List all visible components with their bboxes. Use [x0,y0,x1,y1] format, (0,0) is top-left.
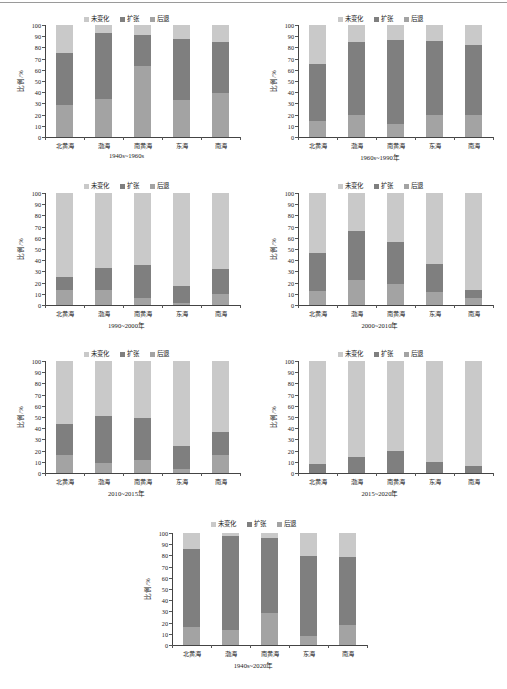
x-axis-label-东海: 东海 [415,477,454,486]
x-axis-label-南海: 南海 [201,477,240,486]
x-tick-mark [367,645,368,648]
legend-item-expansion[interactable]: 扩张 [247,521,266,527]
y-tick-label: 0 [150,642,168,649]
legend-item-unchanged[interactable]: 未变化 [338,351,363,357]
x-axis-line [172,645,367,646]
legend-item-unchanged[interactable]: 未变化 [338,183,363,189]
y-tick-label: 80 [276,380,294,387]
y-tick-label: 90 [23,369,41,376]
legend-label-retreat: 后退 [157,16,169,22]
bar-segment-unchanged [95,25,113,33]
y-tick-label: 40 [276,425,294,432]
x-tick-mark [84,473,85,476]
chart-legend: 未变化扩张后退 [0,183,253,189]
bar-segment-expansion [339,557,357,625]
y-tick-label: 90 [23,33,41,40]
legend-item-retreat[interactable]: 后退 [404,351,423,357]
x-axis-label-南海: 南海 [454,477,493,486]
bar-segment-unchanged [134,25,152,35]
x-axis-label-南海: 南海 [328,649,367,658]
y-tick-label: 50 [23,246,41,253]
legend-item-expansion[interactable]: 扩张 [374,351,393,357]
legend-item-unchanged[interactable]: 未变化 [84,16,109,22]
legend-item-retreat[interactable]: 后退 [277,521,296,527]
bar-segment-expansion [465,45,483,114]
y-tick-label: 10 [276,290,294,297]
y-tick-label: 60 [150,574,168,581]
bar-segment-unchanged [212,361,230,432]
legend-item-unchanged[interactable]: 未变化 [84,183,109,189]
x-axis-label-渤海: 渤海 [84,141,123,150]
chart-panel-7-wrapper: 未变化扩张后退比例/%0102030405060708090100北黄海渤海南黄… [127,511,380,689]
legend-item-unchanged[interactable]: 未变化 [211,521,236,527]
bar-segment-expansion [183,549,201,627]
y-tick-label: 10 [276,122,294,129]
bar-segment-unchanged [134,361,152,418]
x-axis-label-南黄海: 南黄海 [376,141,415,150]
legend-swatch-expansion-icon [374,352,379,357]
y-tick-label: 50 [150,586,168,593]
y-tick-label: 10 [276,458,294,465]
bar-南黄海 [387,193,405,305]
chart-panel-4: 未变化扩张后退比例/%0102030405060708090100北黄海渤海南黄… [253,175,507,343]
bar-segment-expansion [387,242,405,283]
legend-label-unchanged: 未变化 [91,183,109,189]
x-axis-label-南黄海: 南黄海 [376,477,415,486]
bar-segment-expansion [134,35,152,66]
x-axis-label-南黄海: 南黄海 [376,309,415,318]
y-tick-label: 70 [276,391,294,398]
legend-item-retreat[interactable]: 后退 [150,183,169,189]
x-tick-mark [123,305,124,308]
legend-item-expansion[interactable]: 扩张 [120,351,139,357]
bar-segment-expansion [348,42,366,115]
bar-segment-retreat [309,121,327,137]
bar-东海 [173,193,191,305]
bar-南黄海 [134,193,152,305]
x-tick-mark [298,473,299,476]
y-axis-line [298,193,299,305]
bar-segment-retreat [465,298,483,305]
legend-item-unchanged[interactable]: 未变化 [84,351,109,357]
bar-segment-expansion [222,536,240,630]
x-axis-label-东海: 东海 [162,141,201,150]
x-tick-mark [240,473,241,476]
legend-label-expansion: 扩张 [381,183,393,189]
y-tick-label: 0 [276,302,294,309]
legend-item-retreat[interactable]: 后退 [150,16,169,22]
legend-item-expansion[interactable]: 扩张 [120,16,139,22]
bar-segment-retreat [212,294,230,305]
y-tick-label: 90 [276,369,294,376]
legend-item-unchanged[interactable]: 未变化 [338,16,363,22]
x-axis-label-渤海: 渤海 [337,309,376,318]
legend-item-retreat[interactable]: 后退 [150,351,169,357]
legend-item-expansion[interactable]: 扩张 [374,16,393,22]
bar-segment-retreat [134,460,152,473]
x-axis-label-渤海: 渤海 [337,141,376,150]
bar-东海 [300,533,318,645]
y-tick-label: 80 [23,380,41,387]
x-axis-label-北黄海: 北黄海 [45,309,84,318]
y-tick-label: 30 [23,436,41,443]
legend-label-retreat: 后退 [157,351,169,357]
bar-segment-retreat [173,303,191,305]
bar-segment-expansion [426,41,444,115]
chart-title: 2000~2010年 [253,320,507,330]
bar-segment-unchanged [309,361,327,464]
legend-item-expansion[interactable]: 扩张 [120,183,139,189]
legend-item-expansion[interactable]: 扩张 [374,183,393,189]
y-tick-label: 20 [150,619,168,626]
bar-南黄海 [134,25,152,137]
chart-panel-6: 未变化扩张后退比例/%0102030405060708090100北黄海渤海南黄… [253,343,507,511]
bar-segment-retreat [222,630,240,645]
bar-segment-expansion [173,39,191,100]
bar-南海 [465,361,483,473]
bar-渤海 [95,25,113,137]
legend-item-retreat[interactable]: 后退 [404,16,423,22]
legend-label-expansion: 扩张 [127,183,139,189]
x-axis-label-北黄海: 北黄海 [298,477,337,486]
legend-label-expansion: 扩张 [381,16,393,22]
legend-item-retreat[interactable]: 后退 [404,183,423,189]
y-tick-label: 100 [276,190,294,197]
bar-segment-retreat [173,469,191,473]
legend-swatch-expansion-icon [120,17,125,22]
